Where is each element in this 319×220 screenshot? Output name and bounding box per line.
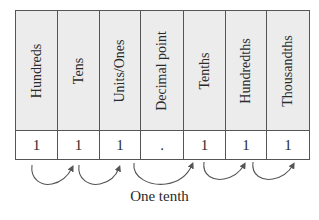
header-tens: Tens [58,11,100,131]
header-row: Hundreds Tens Units/Ones Decimal point T… [16,11,310,131]
header-label: Decimal point [154,31,170,111]
value-hundreds: 1 [16,131,58,160]
header-hundredths: Hundredths [226,11,267,131]
header-label: Hundreds [29,43,45,97]
arrow-icon [253,162,293,179]
value-thousandths: 1 [267,131,310,160]
arrow-icon [134,163,192,184]
arrow-icon [204,162,244,179]
value-tenths: 1 [184,131,226,160]
value-decimal-point: . [141,131,184,160]
header-label: Thousandths [280,35,296,107]
header-hundreds: Hundreds [16,11,58,131]
header-label: Hundredths [238,38,254,103]
arrow-icon [32,165,72,184]
header-label: Units/Ones [112,39,128,102]
header-units: Units/Ones [100,11,141,131]
header-thousandths: Thousandths [267,11,310,131]
header-label: Tenths [197,52,213,89]
header-label: Tens [71,57,87,83]
header-tenths: Tenths [184,11,226,131]
arrow-icon [79,165,119,184]
value-row: 1 1 1 . 1 1 1 [16,131,310,160]
header-decimal-point: Decimal point [141,11,184,131]
value-units: 1 [100,131,141,160]
place-value-table: Hundreds Tens Units/Ones Decimal point T… [15,10,310,160]
value-tens: 1 [58,131,100,160]
value-hundredths: 1 [226,131,267,160]
caption: One tenth [0,188,319,205]
